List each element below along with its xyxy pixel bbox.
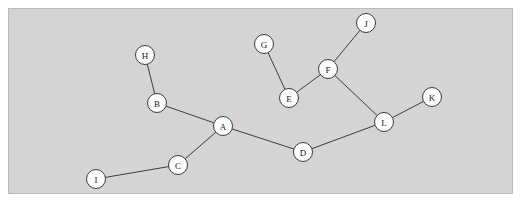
graph-node-d[interactable]: D [294,143,313,162]
graph-node-circle-i[interactable] [87,170,106,189]
graph-edge-f-j [334,30,360,61]
graph-canvas: ABCDEFGHIJKL [0,0,523,202]
graph-node-i[interactable]: I [87,170,106,189]
graph-node-circle-d[interactable] [294,143,313,162]
graph-edge-c-i [105,167,168,178]
graph-node-circle-e[interactable] [280,89,299,108]
graph-edge-a-d [232,129,294,149]
graph-node-c[interactable]: C [169,156,188,175]
graph-edge-a-c [185,132,216,159]
graph-node-f[interactable]: F [319,60,338,79]
graph-edge-l-k [392,101,423,117]
graph-node-circle-b[interactable] [148,94,167,113]
graph-node-g[interactable]: G [255,35,274,54]
graph-node-b[interactable]: B [148,94,167,113]
graph-node-e[interactable]: E [280,89,299,108]
graph-node-circle-g[interactable] [255,35,274,54]
graph-edge-d-l [312,125,375,148]
graph-node-circle-k[interactable] [423,88,442,107]
graph-node-circle-l[interactable] [375,113,394,132]
graph-node-a[interactable]: A [214,117,233,136]
graph-node-h[interactable]: H [136,46,155,65]
graph-node-l[interactable]: L [375,113,394,132]
graph-node-circle-a[interactable] [214,117,233,136]
graph-edge-f-e [297,75,321,93]
nodes-layer: ABCDEFGHIJKL [87,14,442,189]
graph-node-circle-h[interactable] [136,46,155,65]
graph-edge-e-g [268,53,285,90]
graph-node-k[interactable]: K [423,88,442,107]
graph-node-j[interactable]: J [357,14,376,33]
graph-node-circle-j[interactable] [357,14,376,33]
graph-figure-root: ABCDEFGHIJKL [0,0,523,202]
graph-edge-b-a [166,106,214,123]
graph-node-circle-c[interactable] [169,156,188,175]
graph-edge-h-b [147,64,154,94]
graph-edge-l-f [335,76,377,116]
graph-node-circle-f[interactable] [319,60,338,79]
